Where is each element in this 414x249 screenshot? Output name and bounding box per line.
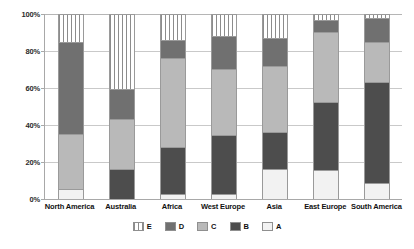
stacked-bar[interactable] <box>262 14 288 199</box>
legend-swatch-b <box>230 222 241 231</box>
bar-segment-d[interactable] <box>59 43 83 135</box>
bar-segment-a[interactable] <box>263 170 287 199</box>
y-tick-label: 80% <box>26 47 40 56</box>
legend-swatch-c <box>197 222 208 231</box>
bar-segment-b[interactable] <box>110 170 134 199</box>
y-tick-label: 40% <box>26 121 40 130</box>
bars-layer <box>45 14 402 199</box>
chart-legend: EDCBA <box>0 222 414 231</box>
bar-segment-c[interactable] <box>161 59 185 147</box>
legend-label: A <box>276 222 281 231</box>
bar-segment-b[interactable] <box>314 103 338 171</box>
stacked-bar-chart: 100%80%60%40%20%0% North AmericaAustrali… <box>0 0 414 249</box>
legend-swatch-d <box>165 222 176 231</box>
bar-segment-c[interactable] <box>365 43 389 83</box>
legend-item[interactable]: D <box>165 222 184 231</box>
legend-item[interactable]: B <box>230 222 249 231</box>
stacked-bar[interactable] <box>313 14 339 199</box>
bar-slot <box>147 14 198 199</box>
bar-segment-e[interactable] <box>110 15 134 90</box>
stacked-bar[interactable] <box>109 14 135 199</box>
x-axis-label: East Europe <box>300 201 351 215</box>
stacked-bar[interactable] <box>364 14 390 199</box>
y-tick-label: 100% <box>22 10 40 19</box>
bar-slot <box>96 14 147 199</box>
x-axis-label: Africa <box>146 201 197 215</box>
x-axis-label: Australia <box>95 201 146 215</box>
bar-slot <box>249 14 300 199</box>
bar-segment-a[interactable] <box>365 184 389 199</box>
legend-item[interactable]: E <box>133 222 152 231</box>
x-axis-labels: North AmericaAustraliaAfricaWest EuropeA… <box>44 201 402 215</box>
legend-label: E <box>147 222 152 231</box>
bar-segment-d[interactable] <box>365 19 389 43</box>
legend-swatch-e <box>133 222 144 231</box>
bar-segment-b[interactable] <box>212 136 236 195</box>
y-tick-label: 60% <box>26 84 40 93</box>
stacked-bar[interactable] <box>58 14 84 199</box>
y-tick-mark <box>41 199 45 200</box>
bar-segment-a[interactable] <box>161 195 185 199</box>
bar-segment-d[interactable] <box>110 90 134 119</box>
plot-area: 100%80%60%40%20%0% <box>44 14 402 200</box>
bar-slot <box>45 14 96 199</box>
legend-label: C <box>211 222 216 231</box>
stacked-bar[interactable] <box>211 14 237 199</box>
bar-segment-c[interactable] <box>263 67 287 133</box>
bar-segment-e[interactable] <box>263 15 287 39</box>
legend-item[interactable]: A <box>262 222 281 231</box>
bar-segment-c[interactable] <box>212 70 236 136</box>
stacked-bar[interactable] <box>160 14 186 199</box>
bar-slot <box>351 14 402 199</box>
bar-segment-c[interactable] <box>59 135 83 190</box>
bar-slot <box>198 14 249 199</box>
bar-segment-a[interactable] <box>212 195 236 199</box>
legend-label: D <box>179 222 184 231</box>
x-axis-label: North America <box>44 201 95 215</box>
bar-segment-e[interactable] <box>212 15 236 37</box>
legend-label: B <box>244 222 249 231</box>
bar-segment-b[interactable] <box>263 133 287 170</box>
bar-segment-d[interactable] <box>314 21 338 34</box>
x-axis-label: West Europe <box>197 201 248 215</box>
bar-segment-b[interactable] <box>365 83 389 184</box>
bar-segment-d[interactable] <box>263 39 287 67</box>
bar-segment-a[interactable] <box>59 190 83 199</box>
bar-segment-c[interactable] <box>314 33 338 103</box>
y-tick-label: 0% <box>30 195 40 204</box>
bar-slot <box>300 14 351 199</box>
x-axis-label: Asia <box>249 201 300 215</box>
legend-swatch-a <box>262 222 273 231</box>
bar-segment-c[interactable] <box>110 120 134 170</box>
bar-segment-a[interactable] <box>314 171 338 199</box>
legend-item[interactable]: C <box>197 222 216 231</box>
bar-segment-b[interactable] <box>161 148 185 196</box>
y-tick-label: 20% <box>26 158 40 167</box>
x-axis-label: South America <box>351 201 402 215</box>
bar-segment-e[interactable] <box>161 15 185 41</box>
bar-segment-d[interactable] <box>212 37 236 70</box>
bar-segment-e[interactable] <box>59 15 83 43</box>
bar-segment-d[interactable] <box>161 41 185 59</box>
